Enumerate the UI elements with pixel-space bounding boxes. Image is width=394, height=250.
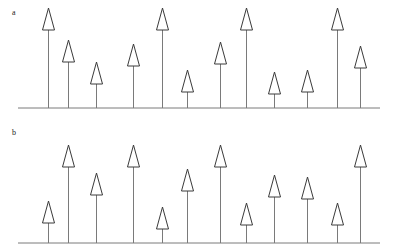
arrow-marker [157,207,169,243]
arrow-head-icon [302,177,314,199]
arrow-marker [355,145,367,243]
panel-b-plot [0,120,394,250]
arrow-marker [332,8,344,108]
panel-a: a [0,0,394,120]
arrow-head-icon [157,8,169,30]
arrow-head-icon [128,44,140,66]
arrow-marker [157,8,169,108]
arrow-marker [63,40,75,108]
arrow-marker [241,8,253,108]
figure-container: a b [0,0,394,250]
arrow-marker [128,145,140,243]
panel-a-plot [0,0,394,120]
arrow-marker [63,145,75,243]
arrow-marker [355,46,367,108]
arrow-head-icon [63,40,75,62]
arrow-marker [332,203,344,243]
arrow-marker [91,62,103,108]
arrow-marker [91,173,103,243]
arrow-head-icon [332,8,344,30]
arrow-marker [302,70,314,108]
arrow-head-icon [91,62,103,84]
arrow-marker [302,177,314,243]
arrow-head-icon [43,8,55,30]
arrow-head-icon [302,70,314,92]
arrow-marker [269,72,281,108]
arrow-head-icon [128,145,140,167]
arrow-marker [182,169,194,243]
arrow-head-icon [157,207,169,229]
arrow-marker [43,201,55,243]
arrow-marker [43,8,55,108]
arrow-head-icon [215,42,227,64]
arrow-head-icon [332,203,344,225]
arrow-head-icon [269,175,281,197]
arrow-marker [128,44,140,108]
arrow-head-icon [241,203,253,225]
arrow-marker [215,42,227,108]
arrow-marker [241,203,253,243]
arrow-head-icon [91,173,103,195]
panel-b: b [0,120,394,250]
arrow-head-icon [355,46,367,68]
arrow-head-icon [241,8,253,30]
arrow-head-icon [63,145,75,167]
arrow-head-icon [182,70,194,92]
arrow-head-icon [215,145,227,167]
arrow-marker [182,70,194,108]
arrow-head-icon [43,201,55,223]
arrow-head-icon [269,72,281,94]
arrow-marker [215,145,227,243]
arrow-head-icon [182,169,194,191]
arrow-head-icon [355,145,367,167]
arrow-marker [269,175,281,243]
